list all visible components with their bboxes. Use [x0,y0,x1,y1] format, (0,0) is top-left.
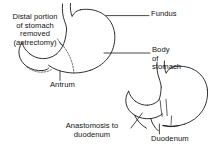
lower-lesser-curvature [159,87,161,100]
label-body-of-stomach: Body of stomach [152,46,202,72]
lower-duodenum-tail-inner [151,119,158,131]
lower-greater-curvature [184,89,207,124]
cardiac-notch [72,10,80,17]
greater-curvature [91,33,115,70]
anatomical-diagram: Distal portion of stomach removed (antre… [0,0,223,152]
anastomosis-suture-3 [171,116,172,124]
label-fundus: Fundus [151,10,177,19]
lower-body-lower-wall [163,124,184,126]
anastomosis-left-edge [136,101,148,105]
lower-duodenum-tail [135,115,147,128]
lower-duodenum-inner-wall [151,114,163,119]
pylorus-neck-upper [29,54,56,59]
lower-stomach-figure [126,61,208,134]
duodenum-removed-dash [27,67,53,73]
anastomosis-upper-edge [148,100,159,105]
label-duodenum: Duodenum [151,135,189,144]
fundus-outline [81,9,115,33]
duodenum-inner-wall [43,68,49,70]
label-anastomosis-to-duodenum: Anastomosis to duodenum [56,122,128,139]
lower-duodenum-outer-wall [129,91,136,101]
body-lower-wall [49,65,91,73]
label-antrum: Antrum [50,81,75,90]
anastomosis-leader [131,113,142,128]
label-distal-portion-removed: Distal portion of stomach removed (antre… [4,13,66,47]
esophagus-right-wall [70,4,72,17]
anastomosis-suture-2 [166,99,167,115]
